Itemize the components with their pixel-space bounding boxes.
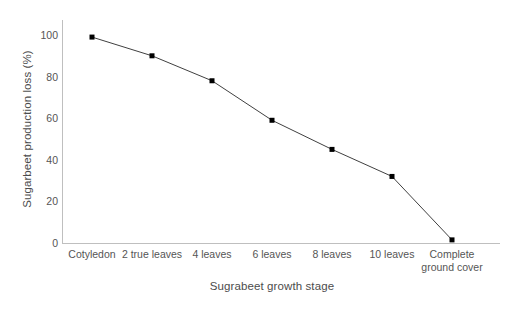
data-series-sugarbeet-production-loss (62, 35, 482, 243)
y-axis-tick-label: 80 (34, 71, 58, 83)
plot-area (62, 35, 482, 243)
y-axis-tick-label: 60 (34, 112, 58, 124)
data-point-marker (390, 174, 395, 179)
x-axis-line (62, 243, 500, 244)
series-markers (90, 35, 455, 243)
y-axis-tick-label: 40 (34, 154, 58, 166)
x-axis-tick-label: Completeground cover (410, 248, 494, 274)
data-point-marker (330, 147, 335, 152)
y-axis-tick-label: 100 (34, 29, 58, 41)
data-point-marker (270, 118, 275, 123)
data-point-marker (150, 53, 155, 58)
data-point-marker (90, 35, 95, 40)
y-axis-tick-label: 20 (34, 195, 58, 207)
x-axis-title: Sugrabeet growth stage (62, 280, 482, 292)
series-line (92, 37, 452, 240)
data-point-marker (450, 237, 455, 242)
data-point-marker (210, 78, 215, 83)
y-axis-tick-labels: 020406080100 (34, 0, 58, 311)
line-chart: Sugarbeet production loss (%) 0204060801… (0, 0, 528, 311)
